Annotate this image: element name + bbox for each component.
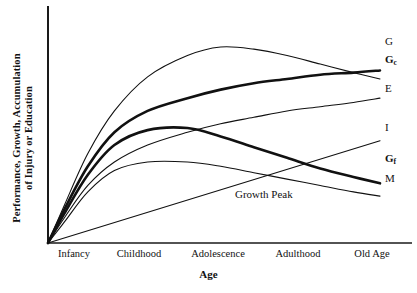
x-tick-label-infancy: Infancy <box>58 248 90 259</box>
series-label-gc-sub: c <box>394 58 397 67</box>
series-label-gf-text: G <box>385 152 394 164</box>
series-label-gf: Gf <box>385 152 396 164</box>
series-label-gc-text: G <box>385 53 394 65</box>
series-label-gf-sub: f <box>394 157 397 166</box>
annotation-growth-peak: Growth Peak <box>235 188 293 200</box>
series-label-e-text: E <box>385 82 392 94</box>
series-line-i <box>48 141 380 243</box>
series-label-g-text: G <box>385 35 393 47</box>
series-paths-group <box>48 47 380 243</box>
x-tick-label-childhood: Childhood <box>117 248 161 259</box>
x-tick-label-old-age: Old Age <box>354 248 389 259</box>
series-label-e: E <box>385 82 392 94</box>
series-line-m <box>48 161 380 243</box>
x-tick-label-adulthood: Adulthood <box>276 248 321 259</box>
chart-figure: Performance, Growth, Accumulation of Inj… <box>0 0 417 293</box>
series-label-m: M <box>385 172 395 184</box>
x-axis-title: Age <box>0 268 417 280</box>
series-label-m-text: M <box>385 172 395 184</box>
series-label-i-text: I <box>385 121 389 133</box>
x-tick-label-adolescence: Adolescence <box>191 248 245 259</box>
series-label-g: G <box>385 35 393 47</box>
series-line-gc <box>48 70 380 243</box>
series-label-gc: Gc <box>385 53 397 65</box>
series-line-g <box>48 47 380 243</box>
series-label-i: I <box>385 121 389 133</box>
series-line-gf <box>48 127 380 243</box>
